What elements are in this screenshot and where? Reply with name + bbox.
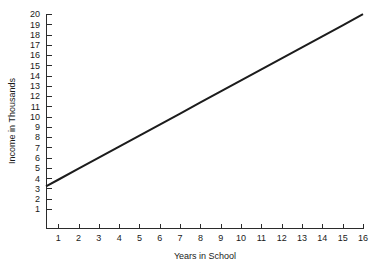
y-tick-label: 13: [30, 81, 40, 91]
y-tick-label: 7: [35, 143, 40, 153]
y-axis-title: Income in Thousands: [7, 78, 17, 164]
y-tick-label: 17: [30, 40, 40, 50]
x-tick-label: 15: [338, 233, 348, 243]
x-tick-label: 10: [236, 233, 246, 243]
y-tick-label: 3: [35, 184, 40, 194]
x-tick-label: 5: [137, 233, 142, 243]
y-tick-label: 14: [30, 71, 40, 81]
x-tick-label: 6: [157, 233, 162, 243]
x-tick-label: 14: [317, 233, 327, 243]
y-tick-label: 15: [30, 61, 40, 71]
x-tick-label: 2: [76, 233, 81, 243]
y-tick-label: 9: [35, 122, 40, 132]
y-tick-label: 20: [30, 9, 40, 19]
y-tick-label: 12: [30, 91, 40, 101]
x-tick-label: 16: [358, 233, 368, 243]
x-axis-title: Years in School: [174, 251, 236, 261]
y-tick-label: 1: [35, 204, 40, 214]
y-tick-label: 10: [30, 112, 40, 122]
x-tick-label: 9: [218, 233, 223, 243]
x-tick-label: 3: [96, 233, 101, 243]
income-vs-years-line-chart: 1234567891011121314151617181920 12345678…: [0, 0, 375, 266]
y-tick-label: 19: [30, 20, 40, 30]
y-tick-label: 5: [35, 163, 40, 173]
y-tick-label: 2: [35, 194, 40, 204]
chart-page: 1234567891011121314151617181920 12345678…: [0, 0, 375, 266]
x-tick-label: 13: [297, 233, 307, 243]
x-tick-label: 4: [117, 233, 122, 243]
x-tick-label: 8: [198, 233, 203, 243]
y-tick-label: 8: [35, 132, 40, 142]
x-tick-label: 7: [178, 233, 183, 243]
y-tick-label: 6: [35, 153, 40, 163]
x-tick-label: 12: [277, 233, 287, 243]
y-tick-label: 11: [31, 102, 40, 112]
x-tick-label: 1: [56, 233, 61, 243]
y-tick-label: 18: [30, 30, 40, 40]
x-tick-label: 11: [257, 233, 266, 243]
y-tick-label: 4: [35, 174, 40, 184]
y-tick-label: 16: [30, 50, 40, 60]
chart-background: [0, 0, 375, 266]
